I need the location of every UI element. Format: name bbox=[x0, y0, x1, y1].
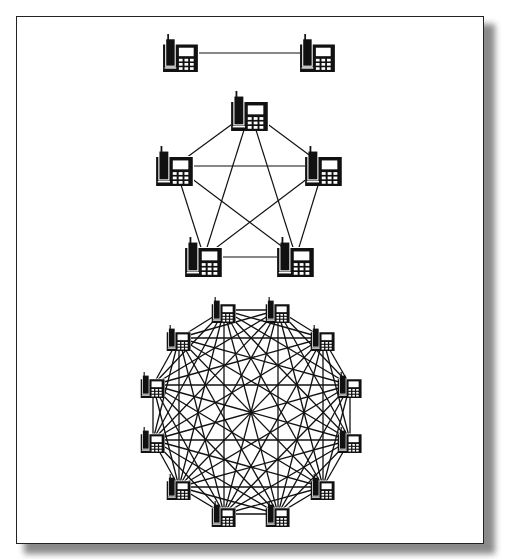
two-phone-network bbox=[163, 34, 336, 72]
connection-line bbox=[179, 338, 350, 440]
twelve-phone-network bbox=[141, 297, 362, 527]
connection-line bbox=[250, 111, 296, 257]
five-phone-network bbox=[156, 91, 343, 277]
connection-line bbox=[204, 111, 250, 257]
network-diagrams bbox=[0, 0, 505, 559]
connection-lines bbox=[175, 111, 324, 257]
